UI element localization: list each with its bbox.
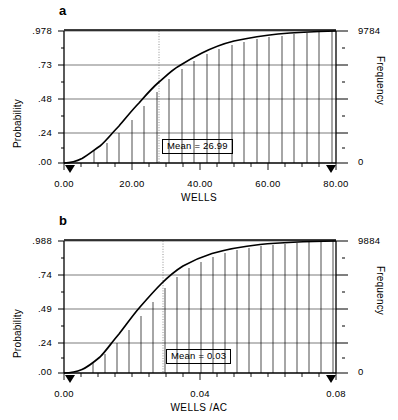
panel-b-axes bbox=[64, 240, 336, 373]
panel-b-right-ticks bbox=[336, 241, 348, 373]
panel-b: b Probability Frequency .988 .74 .49 .24… bbox=[0, 210, 398, 420]
panel-a-left-certainty-marker[interactable] bbox=[65, 165, 75, 173]
panel-a-plot bbox=[0, 0, 398, 210]
panel-b-x-ticks bbox=[64, 373, 336, 380]
panel-a-cdf-curve bbox=[64, 31, 336, 163]
panel-a-right-certainty-marker[interactable] bbox=[326, 165, 336, 173]
panel-a-x-ticks bbox=[64, 163, 336, 170]
panel-b-cdf-curve bbox=[64, 241, 336, 373]
panel-b-left-ticks bbox=[58, 241, 64, 373]
panel-a-left-ticks bbox=[58, 31, 64, 163]
panel-a-drop-lines bbox=[94, 31, 332, 163]
panel-b-gridlines bbox=[64, 241, 336, 343]
panel-b-plot bbox=[0, 210, 398, 420]
figure-root: a Probability Frequency .978 .73 .48 .24… bbox=[0, 0, 398, 420]
panel-a: a Probability Frequency .978 .73 .48 .24… bbox=[0, 0, 398, 210]
panel-a-gridlines bbox=[64, 31, 336, 133]
panel-a-right-ticks bbox=[336, 31, 348, 163]
panel-b-right-certainty-marker[interactable] bbox=[326, 375, 336, 383]
panel-b-left-certainty-marker[interactable] bbox=[65, 375, 75, 383]
panel-b-drop-lines bbox=[93, 241, 333, 373]
panel-a-axes bbox=[64, 30, 336, 163]
